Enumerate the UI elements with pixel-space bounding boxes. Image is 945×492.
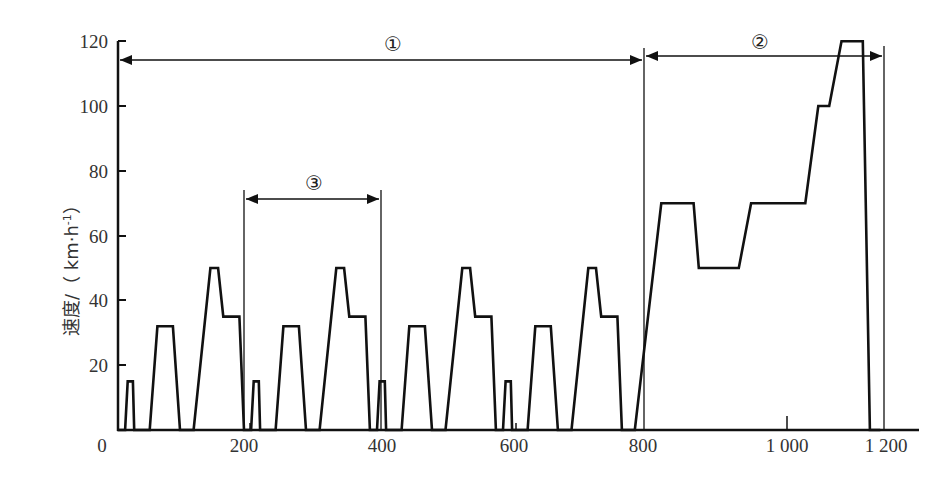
axes bbox=[117, 41, 919, 431]
svg-text:速度/（ km·h-1）: 速度/（ km·h-1） bbox=[61, 196, 82, 336]
label-single-ece: ③ bbox=[305, 171, 323, 195]
y-tick-40: 40 bbox=[89, 290, 108, 311]
y-tick-labels: 120 100 80 60 40 20 bbox=[80, 31, 109, 376]
nedc-speed-chart: 120 100 80 60 40 20 0 200 400 600 800 1 … bbox=[0, 0, 945, 492]
x-tick-600: 600 bbox=[500, 435, 529, 456]
speed-curve bbox=[118, 41, 880, 430]
y-tick-100: 100 bbox=[80, 96, 109, 117]
x-tick-200: 200 bbox=[230, 435, 259, 456]
y-axis-label: 速度/（ km·h-1） bbox=[61, 196, 82, 336]
y-label-main: 速度/（ km·h bbox=[61, 225, 82, 336]
x-ticks bbox=[250, 416, 787, 430]
x-tick-1200: 1 200 bbox=[865, 435, 908, 456]
x-tick-1000: 1 000 bbox=[766, 435, 809, 456]
x-tick-0: 0 bbox=[97, 435, 107, 456]
x-tick-400: 400 bbox=[368, 435, 397, 456]
x-tick-labels: 0 200 400 600 800 1 000 1 200 bbox=[97, 435, 907, 456]
x-tick-800: 800 bbox=[629, 435, 658, 456]
y-tick-120: 120 bbox=[80, 31, 109, 52]
segment-boundaries bbox=[244, 46, 884, 430]
label-urban-total: ① bbox=[384, 32, 402, 56]
y-tick-80: 80 bbox=[89, 161, 108, 182]
y-tick-20: 20 bbox=[89, 355, 108, 376]
label-extra-urban: ② bbox=[751, 30, 769, 54]
y-tick-60: 60 bbox=[89, 226, 108, 247]
annotation-arrows bbox=[120, 56, 882, 199]
y-label-close: ） bbox=[61, 196, 82, 214]
y-label-sup: -1 bbox=[61, 214, 74, 225]
annotation-labels: ① ② ③ bbox=[305, 30, 769, 195]
